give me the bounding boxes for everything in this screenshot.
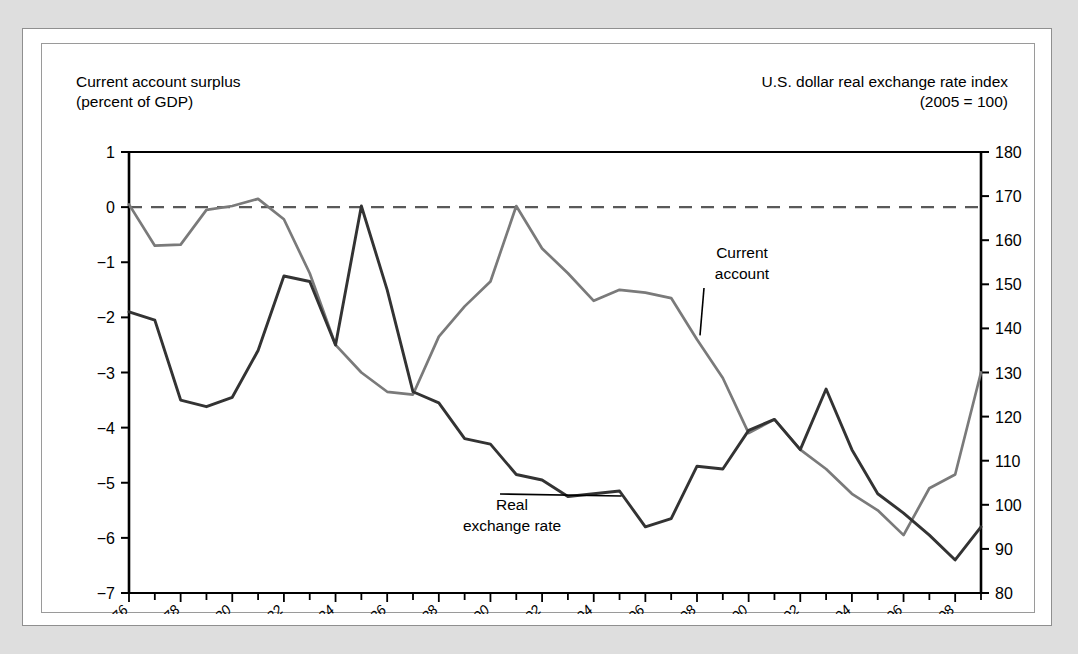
figure-background: Current account surplus (percent of GDP)… xyxy=(0,0,1078,654)
x-axis-tick-label: 2008 xyxy=(922,602,957,614)
y-axis-tick-label-right: 180 xyxy=(995,144,1022,161)
y-axis-tick-label-left: 0 xyxy=(106,199,115,216)
x-axis-tick-label: 2000 xyxy=(716,602,751,614)
x-axis-tick-label: 1976 xyxy=(97,601,132,614)
x-axis-tick-label: 1978 xyxy=(149,602,183,614)
figure-outer-frame: Current account surplus (percent of GDP)… xyxy=(22,28,1052,626)
y-axis-tick-label-left: −3 xyxy=(97,365,115,382)
x-axis-tick-label: 1982 xyxy=(252,602,286,614)
tick-labels-layer: 10−1−2−3−4−5−6−7180170160150140130120110… xyxy=(97,144,1022,614)
y-axis-tick-label-left: −6 xyxy=(97,530,115,547)
y-axis-tick-label-left: −1 xyxy=(97,254,115,271)
x-axis-tick-label: 1984 xyxy=(304,602,338,614)
x-axis-tick-label: 1998 xyxy=(665,602,699,614)
figure-inner-frame: Current account surplus (percent of GDP)… xyxy=(41,43,1035,613)
y-axis-tick-label-right: 120 xyxy=(995,409,1022,426)
x-axis-tick-label: 1996 xyxy=(613,601,648,614)
y-axis-tick-label-right: 140 xyxy=(995,320,1022,337)
y-axis-tick-label-right: 160 xyxy=(995,232,1022,249)
x-axis-tick-label: 2006 xyxy=(871,601,906,614)
y-axis-tick-label-right: 170 xyxy=(995,188,1022,205)
annotation-label-line: exchange rate xyxy=(463,517,561,534)
axes-layer xyxy=(121,152,989,602)
x-axis-tick-label: 1994 xyxy=(562,602,596,614)
annotation-label-line: Real xyxy=(496,496,528,513)
x-axis-tick-label: 1988 xyxy=(407,602,441,614)
x-axis-tick-label: 2004 xyxy=(819,602,854,614)
annotation-label-line: account xyxy=(715,265,770,282)
annotation-real-exchange-rate: Realexchange rate xyxy=(463,494,622,534)
y-axis-tick-label-right: 90 xyxy=(995,541,1013,558)
annotation-label-line: Current xyxy=(716,244,768,261)
y-axis-tick-label-left: 1 xyxy=(106,144,115,161)
y-axis-tick-label-right: 130 xyxy=(995,365,1022,382)
y-axis-tick-label-left: −2 xyxy=(97,309,115,326)
y-axis-tick-label-right: 110 xyxy=(995,453,1021,470)
x-axis-tick-label: 1992 xyxy=(510,602,544,614)
x-axis-tick-label: 1990 xyxy=(458,602,492,614)
annotation-current-account: Currentaccount xyxy=(700,244,770,335)
x-axis-tick-label: 1980 xyxy=(200,602,234,614)
series-line-current-account xyxy=(129,199,981,535)
series-layer xyxy=(129,199,981,560)
y-axis-tick-label-left: −5 xyxy=(97,475,115,492)
chart-plot: 10−1−2−3−4−5−6−7180170160150140130120110… xyxy=(42,44,1036,614)
y-axis-tick-label-right: 80 xyxy=(995,585,1013,602)
y-axis-tick-label-left: −4 xyxy=(97,420,115,437)
x-axis-tick-label: 1986 xyxy=(355,601,390,614)
y-axis-tick-label-right: 150 xyxy=(995,276,1022,293)
y-axis-tick-label-right: 100 xyxy=(995,497,1022,514)
y-axis-tick-label-left: −7 xyxy=(97,585,115,602)
annotation-leader-line xyxy=(700,288,704,335)
x-axis-tick-label: 2002 xyxy=(768,602,803,614)
